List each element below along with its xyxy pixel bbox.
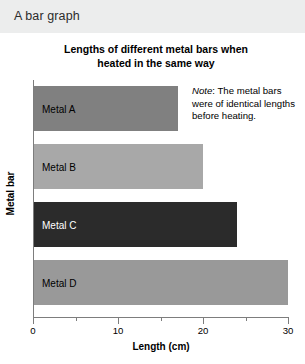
x-tick-major [288,318,289,324]
x-tick-major [33,318,34,324]
x-tick-minor [161,318,162,321]
page-title: A bar graph [14,9,80,23]
bar-label: Metal B [42,161,76,172]
bar-metal-d: Metal D [33,260,288,305]
y-axis-title: Metal bar [5,134,16,254]
x-tick-label: 10 [113,325,124,336]
x-tick-label: 0 [30,325,35,336]
plot-area: Metal AMetal BMetal CMetal D [33,80,288,317]
chart-title-line-1: Lengths of different metal bars when [42,43,270,57]
y-axis-line [33,80,34,318]
bar-row: Metal A [33,86,288,131]
x-tick-minor [76,318,77,321]
bar-label: Metal C [42,219,76,230]
x-axis-title: Length (cm) [33,341,289,352]
header-band: A bar graph [0,0,305,33]
bar-label: Metal D [42,277,76,288]
chart-title-line-2: heated in the same way [42,57,270,71]
bar-label: Metal A [42,103,75,114]
bar-row: Metal C [33,202,288,247]
x-tick-major [118,318,119,324]
x-tick-label: 20 [198,325,209,336]
chart-title: Lengths of different metal bars when hea… [42,43,270,70]
bar-chart-figure: Lengths of different metal bars when hea… [0,33,305,364]
bar-metal-c: Metal C [33,202,237,247]
x-tick-minor [246,318,247,321]
bar-metal-b: Metal B [33,144,203,189]
bar-row: Metal B [33,144,288,189]
x-tick-major [203,318,204,324]
bar-metal-a: Metal A [33,86,178,131]
bar-row: Metal D [33,260,288,305]
x-tick-label: 30 [283,325,294,336]
